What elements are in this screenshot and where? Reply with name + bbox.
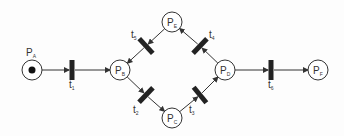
place-label: PA: [26, 47, 37, 59]
petri-net-diagram: t1t2t3t4t5t6 PAPBPCPDPEPF: [0, 0, 344, 136]
place-PE: PE: [162, 12, 182, 32]
transitions: t1t2t3t4t5t6: [69, 29, 274, 116]
token-dot: [29, 67, 36, 74]
place-PD: PD: [215, 60, 235, 80]
transition-bar: [70, 60, 75, 80]
transition-label: t1: [69, 79, 75, 91]
arcs: [42, 29, 308, 112]
transition-label: t6: [268, 79, 274, 91]
arc-PE-t5: [148, 29, 164, 44]
arc-PB-t2: [127, 77, 144, 93]
arc-t2-PC: [148, 97, 164, 111]
place-PA: PA: [22, 47, 42, 80]
transition-label: t4: [209, 29, 215, 41]
diagram-svg: t1t2t3t4t5t6 PAPBPCPDPEPF: [0, 0, 344, 136]
transition-t1: [70, 60, 75, 80]
arc-t5-PB: [127, 48, 143, 63]
transition-bar: [269, 60, 274, 80]
transition-label: t5: [131, 29, 137, 41]
transition-label: t2: [133, 104, 139, 116]
transition-bar: [192, 86, 209, 105]
transition-t3: [192, 86, 209, 105]
arc-t4-PE: [180, 29, 198, 45]
place-PC: PC: [162, 108, 182, 128]
transition-bar: [137, 37, 154, 55]
transition-label: t3: [189, 104, 195, 116]
transition-t5: [137, 37, 154, 55]
place-PF: PF: [308, 60, 328, 80]
transition-t6: [269, 60, 274, 80]
arc-t3-PD: [202, 77, 218, 93]
arc-PD-t4: [202, 48, 218, 63]
place-PB: PB: [110, 60, 130, 80]
